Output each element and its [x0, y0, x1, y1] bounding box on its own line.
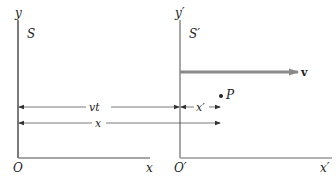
vt-dimension: vt	[19, 101, 179, 114]
s-prime-frame-label: S′	[189, 27, 200, 41]
x-dimension: x	[19, 117, 220, 130]
s-x-axis-label: x	[146, 161, 153, 175]
point-p-dot-icon	[219, 94, 223, 98]
s-prime-x-axis-label: x′	[320, 161, 330, 175]
x-label: x	[95, 117, 102, 130]
frame-s: y S O x	[13, 6, 153, 175]
frame-s-prime: y′ S′ O′ x′	[174, 6, 332, 175]
vt-label: vt	[89, 101, 100, 114]
point-p-label: P	[225, 88, 235, 102]
x-prime-dimension: x′	[181, 101, 220, 114]
s-origin-label: O	[13, 161, 23, 175]
point-p: P	[219, 88, 235, 102]
velocity-vector: v	[180, 66, 308, 79]
velocity-label: v	[300, 66, 308, 79]
s-prime-origin-label: O′	[174, 161, 187, 175]
x-prime-label: x′	[196, 101, 205, 114]
diagram-canvas: y S O x y′ S′ O′ x′ v vt x′ x P	[0, 0, 336, 176]
s-frame-label: S	[27, 27, 35, 41]
s-y-axis-label: y	[14, 6, 22, 20]
s-prime-y-axis-label: y′	[174, 6, 185, 20]
